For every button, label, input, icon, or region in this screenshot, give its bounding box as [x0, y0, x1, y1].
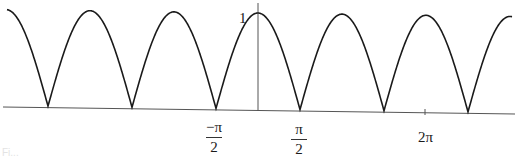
- x-tick-label-neg-pi-over-2: −π 2: [205, 120, 223, 155]
- fraction-bar: [291, 139, 307, 140]
- x-tick-label-denominator: 2: [295, 142, 303, 157]
- abs-cos-plot: [0, 0, 523, 159]
- x-tick-label-numerator: π: [294, 122, 304, 138]
- x-tick-label-numerator: −π: [205, 120, 223, 136]
- fraction-bar: [206, 137, 222, 138]
- abs-cos-curve: [7, 10, 512, 112]
- figure-caption-fragment: Fi...: [2, 147, 19, 158]
- y-tick-label-one: 1: [239, 11, 247, 26]
- x-tick-label-pi-over-2: π 2: [291, 122, 307, 157]
- x-tick-label-denominator: 2: [210, 140, 218, 155]
- x-axis: [3, 107, 515, 114]
- x-tick-label-2pi: 2π: [418, 130, 433, 145]
